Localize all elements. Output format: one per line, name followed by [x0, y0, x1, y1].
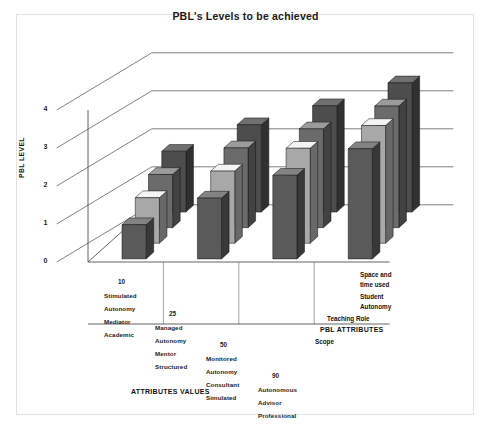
- x-category-label-line: Mentor: [155, 350, 176, 357]
- x-category-value: 50: [220, 341, 227, 348]
- x-category-label-line: Autonomy: [155, 337, 186, 344]
- y-tick-label: 0: [43, 257, 47, 264]
- x-category-value: 25: [169, 310, 176, 317]
- x-category-label-line: Advisor: [258, 399, 282, 406]
- z-series-label: time used: [360, 281, 389, 288]
- z-series-label: Space and: [360, 271, 392, 278]
- x-category-label-line: Structured: [155, 363, 187, 370]
- y-tick-label: 3: [43, 143, 47, 150]
- bars-group: [122, 76, 420, 259]
- x-category-label-line: Autonomous: [258, 386, 297, 393]
- z-series-label: Teaching Role: [327, 315, 370, 322]
- z-series-label: Scope: [315, 338, 334, 345]
- chart-plot-area: [0, 0, 491, 437]
- x-category-label-line: Professional: [258, 412, 296, 419]
- x-category-label-line: Autonomy: [104, 305, 135, 312]
- x-category-label-line: Stimulated: [104, 292, 137, 299]
- x-category-label-line: Mediator: [104, 318, 131, 325]
- z-series-label: Autonomy: [360, 303, 391, 310]
- y-tick-label: 1: [43, 219, 47, 226]
- z-series-label: Student: [360, 293, 383, 300]
- chart-svg: [0, 0, 491, 437]
- x-category-value: 90: [272, 372, 279, 379]
- y-axis-title: PBL LEVEL: [18, 137, 25, 178]
- x-axis-title: ATTRIBUTES VALUES: [131, 388, 210, 395]
- x-category-label-line: Managed: [155, 324, 183, 331]
- x-category-label-line: Autonomy: [206, 368, 237, 375]
- x-category-label-line: Simulated: [206, 394, 236, 401]
- x-category-label-line: Monitored: [206, 355, 237, 362]
- z-axis-title: PBL ATTRIBUTES: [320, 326, 384, 333]
- x-category-label-line: Consultant: [206, 381, 239, 388]
- x-category-label-line: Academic: [104, 331, 134, 338]
- y-tick-label: 4: [43, 105, 47, 112]
- y-tick-label: 2: [43, 181, 47, 188]
- x-category-value: 10: [118, 278, 125, 285]
